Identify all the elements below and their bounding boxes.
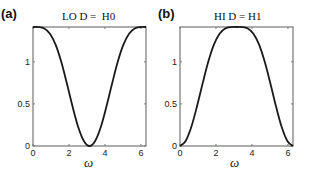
- y-tick-label: 1: [172, 57, 177, 67]
- x-tick-label: 4: [102, 148, 107, 158]
- x-tick-label: 4: [249, 148, 254, 158]
- series-line: [33, 27, 146, 146]
- y-tick-label: 0: [25, 141, 30, 151]
- x-tick-label: 6: [285, 148, 290, 158]
- x-tick-label: 0: [177, 148, 182, 158]
- y-tick-label: 1: [25, 57, 30, 67]
- x-tick-label: 6: [138, 148, 143, 158]
- y-tick-label: 0: [172, 141, 177, 151]
- x-tick-label: 2: [213, 148, 218, 158]
- plot-frame: [33, 27, 146, 146]
- plot-frame: [180, 27, 293, 146]
- y-tick-label: 0.5: [17, 99, 30, 109]
- x-tick-label: 2: [66, 148, 71, 158]
- x-tick-label: 0: [30, 148, 35, 158]
- y-tick-label: 0.5: [164, 99, 177, 109]
- series-line: [180, 27, 293, 146]
- plots-canvas: 024600.51024600.51: [0, 0, 309, 175]
